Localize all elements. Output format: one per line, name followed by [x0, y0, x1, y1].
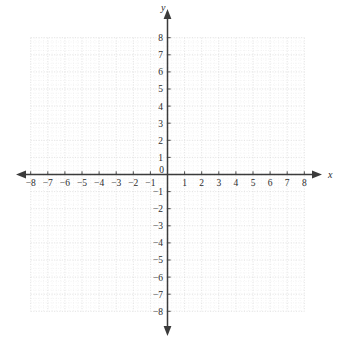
y-tick-label: −2 [153, 204, 163, 214]
y-tick-label: −6 [153, 273, 163, 283]
x-axis-left-arrow-icon [16, 171, 26, 179]
y-tick-label: 3 [158, 119, 163, 129]
y-tick-label: 7 [158, 50, 163, 60]
graph-canvas: −8−7−6−5−4−3−2−1012345678−8−7−6−5−4−3−2−… [0, 0, 341, 345]
y-tick-label: 4 [158, 102, 163, 112]
x-axis-right-arrow-icon [312, 171, 322, 179]
x-tick-label: 6 [268, 178, 273, 188]
x-tick-label: −3 [111, 178, 121, 188]
y-tick-label: −8 [153, 307, 163, 317]
x-tick-label: 5 [251, 178, 256, 188]
y-tick-label: 2 [158, 136, 163, 146]
y-tick-label: −1 [153, 187, 163, 197]
coordinate-plane-figure: −8−7−6−5−4−3−2−1012345678−8−7−6−5−4−3−2−… [0, 0, 341, 345]
x-axis-label: x [327, 169, 333, 180]
x-tick-label: −7 [43, 178, 53, 188]
y-axis-label: y [160, 2, 166, 13]
x-tick-label: −4 [94, 178, 104, 188]
x-tick-label: 8 [302, 178, 307, 188]
x-tick-label: −6 [60, 178, 70, 188]
y-tick-label: 6 [158, 67, 163, 77]
y-axis [164, 9, 172, 336]
x-tick-label: −8 [26, 178, 36, 188]
x-tick-label: 7 [285, 178, 290, 188]
x-tick-label: −5 [77, 178, 87, 188]
x-tick-label: 2 [199, 178, 204, 188]
y-tick-label: 8 [158, 33, 163, 43]
origin-label: 0 [159, 165, 164, 175]
y-tick-label: −3 [153, 221, 163, 231]
x-tick-label: 3 [216, 178, 221, 188]
y-tick-label: −7 [153, 290, 163, 300]
y-tick-label: −4 [153, 238, 163, 248]
y-tick-label: 5 [158, 84, 163, 94]
y-axis-bottom-arrow-icon [164, 326, 172, 336]
y-tick-label: 1 [158, 153, 163, 163]
x-tick-label: 4 [234, 178, 239, 188]
y-tick-label: −5 [153, 255, 163, 265]
x-tick-label: 1 [182, 178, 187, 188]
x-tick-label: −2 [128, 178, 138, 188]
